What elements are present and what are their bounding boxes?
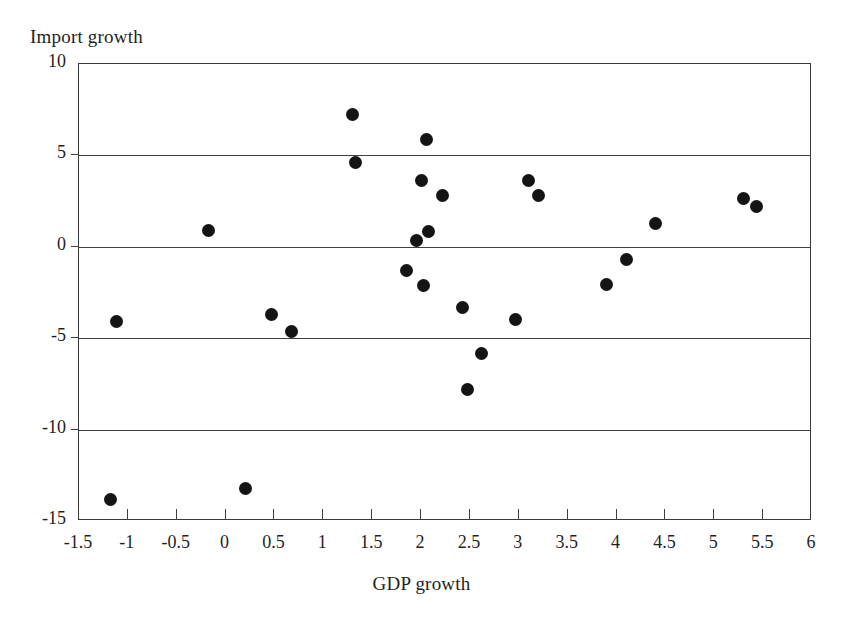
scatter-chart-figure: Import growth 1050-5-10-15 -1.5-1-0.500.… <box>0 0 843 619</box>
data-point <box>600 278 613 291</box>
data-point <box>104 493 117 506</box>
data-point <box>509 313 522 326</box>
data-point <box>737 192 750 205</box>
data-point <box>239 482 252 495</box>
x-tick-label: 0.5 <box>262 532 285 553</box>
data-point <box>410 234 423 247</box>
x-tick-label: 3.5 <box>555 532 578 553</box>
x-axis-title: GDP growth <box>0 573 843 595</box>
x-tick-label: 5 <box>709 532 718 553</box>
data-point <box>349 156 362 169</box>
y-tick-mark <box>71 337 78 338</box>
y-tick-label: 10 <box>0 51 66 72</box>
x-tick-label: 0 <box>220 532 229 553</box>
data-point <box>415 174 428 187</box>
y-tick-label: -5 <box>0 325 66 346</box>
x-tick-mark <box>567 509 568 520</box>
x-tick-mark <box>225 509 226 520</box>
data-point <box>532 189 545 202</box>
plot-area <box>78 63 811 520</box>
x-tick-mark <box>713 509 714 520</box>
x-tick-mark <box>273 509 274 520</box>
x-tick-mark <box>664 509 665 520</box>
y-tick-mark <box>71 429 78 430</box>
x-tick-mark <box>469 509 470 520</box>
x-tick-label: 2.5 <box>458 532 481 553</box>
y-tick-label: -10 <box>0 417 66 438</box>
x-tick-label: 6 <box>807 532 816 553</box>
data-point <box>649 217 662 230</box>
data-point <box>461 383 474 396</box>
x-tick-label: 4 <box>611 532 620 553</box>
x-tick-mark <box>127 509 128 520</box>
data-point <box>110 315 123 328</box>
x-tick-mark <box>371 509 372 520</box>
gridline-y--10 <box>79 430 810 431</box>
data-point <box>750 200 763 213</box>
x-tick-mark <box>322 509 323 520</box>
x-tick-label: 2 <box>416 532 425 553</box>
x-tick-mark <box>518 509 519 520</box>
gridline-y-5 <box>79 155 810 156</box>
data-point <box>417 279 430 292</box>
x-tick-mark <box>176 509 177 520</box>
x-tick-label: 1 <box>318 532 327 553</box>
data-point <box>420 133 433 146</box>
x-tick-label: -1.5 <box>64 532 93 553</box>
gridline-y-0 <box>79 247 810 248</box>
y-tick-label: 0 <box>0 234 66 255</box>
y-tick-mark <box>71 246 78 247</box>
x-tick-mark <box>616 509 617 520</box>
y-axis-title: Import growth <box>30 26 143 48</box>
x-tick-label: 4.5 <box>653 532 676 553</box>
data-point <box>475 347 488 360</box>
y-tick-label: 5 <box>0 142 66 163</box>
gridline-y--5 <box>79 338 810 339</box>
data-point <box>522 174 535 187</box>
x-tick-label: -0.5 <box>161 532 190 553</box>
data-point <box>400 264 413 277</box>
x-tick-mark <box>420 509 421 520</box>
data-point <box>620 253 633 266</box>
data-point <box>265 308 278 321</box>
x-tick-mark <box>762 509 763 520</box>
x-tick-label: 5.5 <box>751 532 774 553</box>
y-tick-mark <box>71 154 78 155</box>
x-tick-label: -1 <box>119 532 134 553</box>
data-point <box>456 301 469 314</box>
y-tick-label: -15 <box>0 508 66 529</box>
x-tick-label: 1.5 <box>360 532 383 553</box>
data-point <box>436 189 449 202</box>
data-point <box>202 224 215 237</box>
data-point <box>285 325 298 338</box>
x-tick-label: 3 <box>513 532 522 553</box>
data-point <box>422 225 435 238</box>
data-point <box>346 108 359 121</box>
